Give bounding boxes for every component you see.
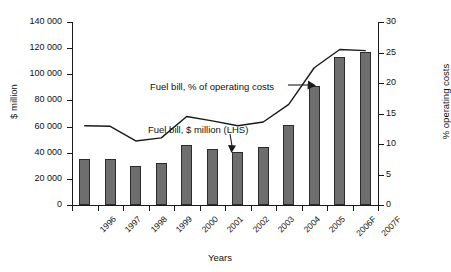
annotation-arrow-bill (228, 134, 236, 153)
annotation-percent-of-operating-costs: Fuel bill, % of operating costs (150, 81, 274, 92)
x-axis-title: Years (0, 252, 440, 263)
annotation-fuel-bill-million: Fuel bill, $ million (LHS) (148, 124, 248, 135)
annotation-arrow-pct (288, 81, 316, 90)
y-axis-left-title: $ million (8, 67, 19, 137)
y-axis-right-title: % operating costs (440, 52, 451, 152)
